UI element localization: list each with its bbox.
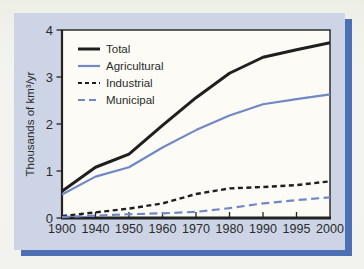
y-tick-label: 2 xyxy=(46,117,53,132)
x-tick-label: 1950 xyxy=(115,222,143,236)
x-tick-label: 1995 xyxy=(283,222,311,236)
y-tick-label: 3 xyxy=(46,70,53,85)
y-tick-label: 4 xyxy=(46,23,53,38)
chart-panel: 0123419001940195019601970198019901995200… xyxy=(14,13,345,250)
x-tick-label: 1900 xyxy=(48,222,76,236)
x-tick-label: 1940 xyxy=(82,222,110,236)
x-tick-label: 2000 xyxy=(316,222,344,236)
legend-label-industrial: Industrial xyxy=(106,77,153,89)
water-use-line-chart: 0123419001940195019601970198019901995200… xyxy=(14,13,345,250)
plot-area xyxy=(62,30,330,218)
legend-label-total: Total xyxy=(106,43,130,55)
y-tick-label: 1 xyxy=(46,164,53,179)
legend-label-agricultural: Agricultural xyxy=(106,60,164,72)
x-tick-label: 1970 xyxy=(182,222,210,236)
x-tick-label: 1990 xyxy=(249,222,277,236)
page-background: 0123419001940195019601970198019901995200… xyxy=(0,0,364,269)
legend-label-municipal: Municipal xyxy=(106,94,155,106)
x-tick-label: 1980 xyxy=(216,222,244,236)
x-tick-label: 1960 xyxy=(149,222,177,236)
y-axis-title: Thousands of km³/yr xyxy=(24,71,36,176)
